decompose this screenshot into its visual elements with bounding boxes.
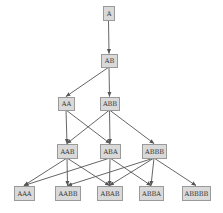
node-label: ABAB bbox=[100, 190, 120, 198]
edge-abb-to-aba bbox=[110, 110, 111, 144]
node-label: AAA bbox=[16, 190, 31, 198]
node-label: A bbox=[106, 10, 112, 18]
node-aaa: AAA bbox=[15, 187, 35, 201]
node-aa: AA bbox=[59, 98, 75, 111]
node-label: AB bbox=[104, 57, 115, 65]
node-label: ABBA bbox=[141, 190, 161, 198]
graph-diagram: AABAAABBAABABAABBBAAAAABBABABABBAABBBB bbox=[0, 0, 223, 213]
node-aabb: AABB bbox=[56, 187, 81, 201]
edge-aab-to-aaa bbox=[24, 158, 67, 186]
node-label: ABB bbox=[102, 100, 117, 108]
node-label: ABA bbox=[102, 148, 117, 156]
edge-abb-to-abbb bbox=[110, 110, 155, 144]
node-a: A bbox=[104, 7, 115, 21]
node-abbbb: ABBBB bbox=[183, 187, 211, 201]
edge-aab-to-abab bbox=[67, 158, 110, 186]
edge-aa-to-aab bbox=[66, 110, 67, 144]
edge-abbb-to-abba bbox=[151, 158, 154, 186]
node-label: ABBBB bbox=[184, 190, 209, 198]
node-aab: AAB bbox=[58, 145, 78, 159]
node-ab: AB bbox=[102, 55, 118, 68]
node-label: ABBB bbox=[144, 148, 164, 156]
node-label: AABB bbox=[58, 190, 78, 198]
edge-a-to-ab bbox=[109, 20, 110, 54]
node-abab: ABAB bbox=[98, 187, 123, 201]
node-abb: ABB bbox=[101, 98, 120, 111]
node-label: AA bbox=[61, 100, 72, 108]
node-aba: ABA bbox=[101, 145, 121, 159]
edge-ab-to-aa bbox=[66, 67, 109, 97]
node-abba: ABBA bbox=[140, 187, 164, 201]
edge-abbb-to-aabb bbox=[68, 158, 155, 186]
edge-ab-to-abb bbox=[109, 67, 110, 97]
node-label: AAB bbox=[59, 148, 74, 156]
edge-abbb-to-abbbb bbox=[154, 158, 196, 186]
node-abbb: ABBB bbox=[143, 145, 167, 159]
